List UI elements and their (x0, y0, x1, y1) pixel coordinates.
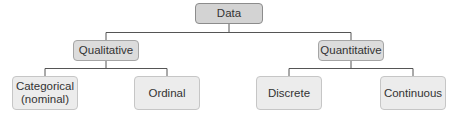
node-continuous: Continuous (380, 76, 446, 110)
node-categorical-line1: Categorical (16, 80, 74, 93)
node-quantitative: Quantitative (318, 40, 384, 61)
node-qualitative: Qualitative (73, 40, 139, 61)
node-quantitative-label: Quantitative (320, 44, 381, 57)
node-continuous-label: Continuous (384, 87, 442, 100)
node-qualitative-label: Qualitative (79, 44, 133, 57)
node-ordinal-label: Ordinal (148, 87, 185, 100)
node-discrete: Discrete (256, 76, 322, 110)
node-discrete-label: Discrete (268, 87, 310, 100)
node-data: Data (195, 3, 263, 24)
node-categorical-line2: (nominal) (21, 93, 69, 106)
node-data-label: Data (217, 7, 241, 20)
node-categorical: Categorical (nominal) (12, 76, 78, 110)
node-ordinal: Ordinal (134, 76, 200, 110)
